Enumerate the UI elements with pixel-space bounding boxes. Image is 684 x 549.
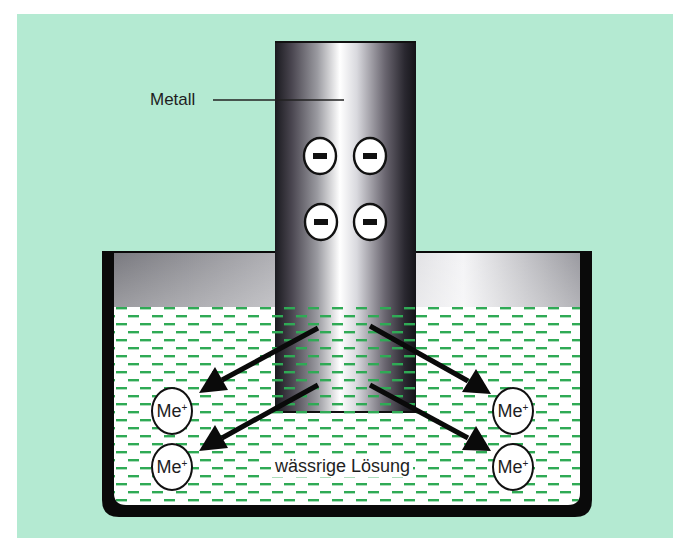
- ion-charge: +: [523, 458, 529, 469]
- solution-label: wässrige Lösung: [272, 456, 413, 477]
- ion-base: Me: [498, 401, 523, 422]
- ion-charge: +: [523, 402, 529, 413]
- ion-base: Me: [157, 401, 182, 422]
- metal-ion-right-bottom: Me+: [492, 443, 534, 491]
- ion-charge: +: [182, 402, 188, 413]
- metal-ion-left-top: Me+: [151, 387, 193, 435]
- electron-icon: [354, 204, 386, 240]
- diagram-canvas: Metall wässrige Lösung Me+ Me+ Me+ Me+: [0, 0, 684, 549]
- metal-ion-right-top: Me+: [492, 387, 534, 435]
- electron-icon: [305, 204, 337, 240]
- ion-base: Me: [498, 457, 523, 478]
- metal-ion-left-bottom: Me+: [151, 443, 193, 491]
- ion-charge: +: [182, 458, 188, 469]
- ion-base: Me: [157, 457, 182, 478]
- metal-label: Metall: [150, 90, 195, 110]
- electron-icon: [304, 138, 336, 174]
- electron-icon: [354, 138, 386, 174]
